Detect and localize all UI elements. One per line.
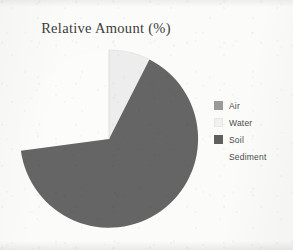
chart-title: Relative Amount (%) [0, 20, 212, 37]
legend-label-water: Water [229, 118, 252, 128]
legend-swatch-water-icon [214, 118, 223, 127]
chart-legend: Air Water Soil Sediment [214, 98, 292, 166]
pie-chart-screenshot: Relative Amount (%) Air Water Soil [0, 0, 293, 250]
legend-label-soil: Soil [229, 135, 244, 145]
legend-swatch-air-icon [214, 101, 223, 110]
legend-item-air[interactable]: Air [214, 98, 292, 113]
legend-item-water[interactable]: Water [214, 115, 292, 130]
legend-item-soil[interactable]: Soil [214, 132, 292, 147]
legend-swatch-sediment-icon [214, 152, 223, 161]
legend-label-air: Air [229, 101, 240, 111]
legend-label-sediment: Sediment [229, 152, 267, 162]
legend-item-sediment[interactable]: Sediment [214, 149, 292, 164]
pie-slice-water [20, 50, 109, 151]
legend-swatch-soil-icon [214, 135, 223, 144]
